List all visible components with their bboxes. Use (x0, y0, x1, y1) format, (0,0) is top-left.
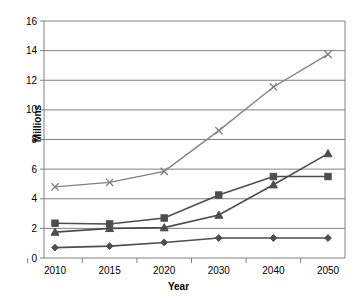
data-point-marker (161, 215, 167, 221)
x-axis-label: Year (0, 281, 357, 292)
data-point-marker (215, 127, 222, 134)
series-square (52, 173, 331, 227)
data-point-marker (324, 51, 331, 58)
data-point-marker (270, 83, 277, 90)
data-point-marker (215, 211, 223, 218)
data-point-marker (325, 235, 332, 242)
x-axis-tick-label: 2050 (317, 265, 340, 276)
x-axis-tick-label: 2015 (98, 265, 121, 276)
series-line (55, 54, 328, 187)
y-axis-tick-label: 12 (26, 75, 38, 86)
series-line (55, 154, 328, 233)
chart-container: 0246810121416 201020152020203020402050 M… (0, 0, 357, 301)
data-series-group (51, 51, 332, 251)
series-diamond (52, 235, 332, 251)
series-triangle (51, 150, 332, 236)
data-point-marker (325, 173, 331, 179)
y-axis-tick-label: 2 (31, 223, 37, 234)
y-axis-label: Millions (32, 89, 43, 159)
data-point-marker (269, 181, 277, 188)
data-point-marker (52, 220, 58, 226)
data-point-marker (161, 239, 168, 246)
data-point-marker (216, 192, 222, 198)
data-point-marker (106, 243, 113, 250)
x-axis-tick-label: 2040 (262, 265, 285, 276)
data-point-marker (215, 235, 222, 242)
y-axis-tick-label: 0 (31, 253, 37, 264)
data-point-marker (52, 244, 59, 251)
gridlines-group (44, 21, 345, 228)
data-point-marker (324, 150, 332, 157)
y-axis-tick-label: 6 (31, 164, 37, 175)
x-axis-tick-label: 2010 (44, 265, 67, 276)
y-axis-tick-label: 4 (31, 193, 37, 204)
x-axis-ticks-group: 201020152020203020402050 (28, 258, 340, 276)
y-axis-tick-label: 16 (26, 16, 38, 27)
y-axis-tick-label: 14 (26, 45, 38, 56)
data-point-marker (270, 235, 277, 242)
series-line (55, 238, 328, 248)
x-axis-tick-label: 2030 (208, 265, 231, 276)
x-axis-tick-label: 2020 (153, 265, 176, 276)
data-point-marker (270, 173, 276, 179)
chart-plot-area: 0246810121416 201020152020203020402050 (0, 0, 357, 301)
